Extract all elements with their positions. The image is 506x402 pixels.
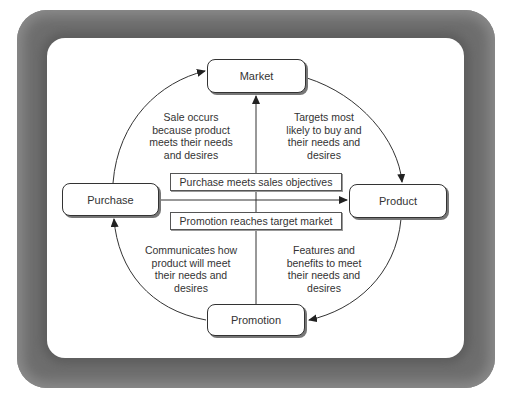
label-line: Sale occurs [135,111,247,124]
label-line: product will meet [135,257,247,270]
label-line: their needs and [268,136,380,149]
label-promotion-to-purchase: Communicates how product will meet their… [135,244,247,294]
label-product-to-promotion: Features and benefits to meet their need… [268,244,380,294]
node-product: Product [349,184,447,218]
node-purchase: Purchase [62,183,159,216]
label-purchase-to-market: Sale occurs because product meets their … [135,111,247,161]
label-line: their needs and [135,269,247,282]
label-line: benefits to meet [268,257,380,270]
label-line: desires [135,282,247,295]
label-line: Communicates how [135,244,247,257]
node-promotion: Promotion [207,304,305,336]
label-line: Features and [268,244,380,257]
label-line: likely to buy and [268,124,380,137]
label-market-to-product: Targets most likely to buy and their nee… [268,111,380,161]
label-line: and desires [135,149,247,162]
box-purchase-meets-sales-objectives: Purchase meets sales objectives [170,173,342,191]
node-market: Market [207,59,306,93]
label-line: Targets most [268,111,380,124]
label-line: their needs and [268,269,380,282]
label-line: desires [268,149,380,162]
label-line: desires [268,282,380,295]
box-promotion-reaches-target-market: Promotion reaches target market [170,212,342,230]
label-line: meets their needs [135,136,247,149]
label-line: because product [135,124,247,137]
